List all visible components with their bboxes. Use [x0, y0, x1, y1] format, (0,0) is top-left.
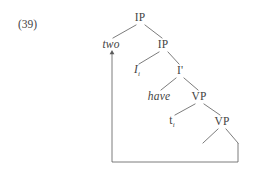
tree-node-two: two: [102, 39, 119, 51]
tree-branch: [161, 78, 176, 90]
movement-arrow-line: [112, 52, 238, 162]
tree-node-label-text: IP: [158, 38, 169, 50]
tree-branch: [175, 104, 195, 115]
tree-node-vp-lower: VP: [214, 116, 229, 128]
tree-lines: [0, 0, 253, 172]
syntax-tree-figure: (39) IPtwoIPIiI'haveVPtiVP: [0, 0, 253, 172]
tree-branch: [203, 129, 218, 143]
tree-node-label-text: have: [148, 90, 171, 102]
tree-node-have: have: [148, 91, 171, 103]
tree-node-vp-upper: VP: [191, 91, 206, 103]
tree-node-trace: ti: [169, 115, 174, 129]
tree-node-subscript: i: [138, 70, 140, 78]
tree-node-i-head: Ii: [134, 64, 140, 78]
tree-branch: [139, 52, 159, 64]
tree-branch: [145, 25, 162, 38]
tree-branch: [226, 129, 238, 143]
tree-branch: [204, 104, 220, 115]
tree-branch: [168, 52, 179, 64]
tree-node-label-text: VP: [214, 115, 229, 127]
tree-node-label-text: VP: [191, 90, 206, 102]
tree-node-label-text: IP: [135, 11, 146, 23]
tree-branch: [113, 25, 136, 38]
tree-node-prime-mark: ': [181, 64, 183, 76]
tree-node-ip-lower: IP: [158, 39, 169, 51]
tree-node-ip-root: IP: [135, 12, 146, 24]
tree-node-i-bar: I': [177, 65, 183, 77]
tree-node-subscript: i: [173, 121, 175, 129]
tree-node-label-text: two: [102, 38, 119, 50]
tree-branch: [184, 78, 198, 90]
